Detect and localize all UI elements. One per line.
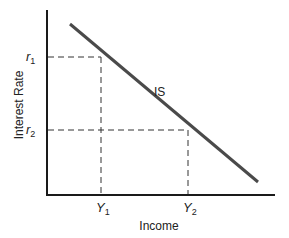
r1-subscript: 1: [30, 56, 35, 66]
y-axis-title: Interest Rate: [12, 70, 26, 139]
x-axis-title: Income: [139, 219, 179, 233]
r1-tick-label: r1: [26, 49, 35, 66]
guide-lines: [48, 57, 188, 194]
is-curve: [70, 24, 258, 182]
y2-subscript: 2: [192, 207, 197, 217]
is-curve-label: IS: [154, 85, 165, 99]
y1-subscript: 1: [105, 207, 110, 217]
r2-subscript: 2: [30, 129, 35, 139]
y1-tick-label: Y1: [96, 200, 110, 217]
is-curve-diagram: IS r1 r2 Y1 Y2 Income Interest Rate: [0, 0, 289, 238]
r2-tick-label: r2: [26, 122, 35, 139]
y2-tick-label: Y2: [183, 200, 197, 217]
